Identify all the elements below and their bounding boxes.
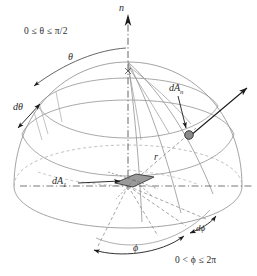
d-a-n-label-base: dA bbox=[169, 82, 180, 93]
phi-range-label: 0 < ϕ ≤ 2π bbox=[175, 256, 216, 266]
theta-range-label: 0 ≤ θ ≤ π/2 bbox=[24, 27, 68, 37]
d-a-n-leader bbox=[178, 96, 186, 128]
theta-label: θ bbox=[68, 52, 73, 62]
d-a-n-label-sub: n bbox=[180, 88, 183, 95]
d-a-1-label-sub: 1 bbox=[63, 181, 66, 188]
d-a-1-leader bbox=[78, 181, 120, 183]
d-a-1-label-base: dA bbox=[52, 175, 63, 186]
apex-ray-1 bbox=[128, 66, 141, 140]
theta-arc bbox=[34, 48, 126, 86]
wedge-line-end bbox=[128, 186, 186, 226]
d-theta-indicator bbox=[18, 92, 62, 140]
wedge-line-start bbox=[98, 186, 128, 246]
normal-axis-label: n bbox=[119, 3, 124, 13]
normal-axis-arrowhead bbox=[125, 14, 132, 26]
theta-arc-indicator bbox=[34, 48, 126, 86]
radius-label: r bbox=[154, 152, 158, 162]
emitted-ray-arrow bbox=[190, 88, 247, 136]
phi-label: ϕ bbox=[133, 243, 138, 253]
wedge-line-mid bbox=[128, 186, 158, 236]
base-rim-front bbox=[14, 186, 242, 228]
wedge-line-dphi bbox=[128, 186, 206, 219]
d-a-n-point bbox=[185, 131, 194, 140]
normal-axis-group bbox=[125, 14, 132, 190]
d-a-n-label: dAn bbox=[169, 83, 184, 96]
hemisphere-spherical-coordinates-diagram: n 0 ≤ θ ≤ π/2 θ dθ dAn r dA1 ϕ dϕ 0 < ϕ … bbox=[0, 0, 257, 276]
diagram-canvas bbox=[0, 0, 257, 276]
d-theta-label: dθ bbox=[13, 102, 23, 112]
d-phi-label: dϕ bbox=[196, 224, 205, 233]
azimuth-wedge-lines bbox=[98, 186, 206, 246]
d-a-1-label: dA1 bbox=[52, 176, 67, 189]
